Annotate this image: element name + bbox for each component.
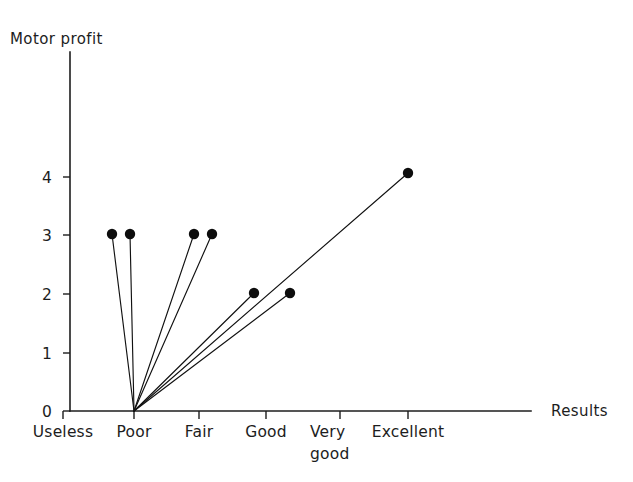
data-point-p2: [125, 229, 135, 239]
y-tick-label-4: 4: [42, 169, 52, 187]
data-point-p1: [107, 229, 117, 239]
ray-line-6: [134, 293, 290, 411]
data-point-p4: [207, 229, 217, 239]
data-point-p7: [403, 168, 413, 178]
data-point-p6: [285, 288, 295, 298]
x-tick-label-very-good: Verygood: [310, 423, 349, 463]
ray-lines-group: [112, 173, 408, 411]
ray-line-5: [134, 293, 254, 411]
data-point-p5: [249, 288, 259, 298]
x-tick-label-excellent: Excellent: [372, 423, 445, 441]
chart-container: Motor profit Results 01234 UselessPoorFa…: [0, 0, 633, 482]
y-tick-label-2: 2: [42, 286, 52, 304]
x-tick-label-fair: Fair: [185, 423, 214, 441]
x-tick-label-poor: Poor: [117, 423, 152, 441]
ray-line-7: [134, 173, 408, 411]
x-axis-ticks: UselessPoorFairGoodVerygoodExcellent: [33, 411, 444, 463]
x-tick-label-useless: Useless: [33, 423, 93, 441]
data-point-p3: [189, 229, 199, 239]
y-tick-label-0: 0: [42, 403, 52, 421]
data-point-markers-group: [107, 168, 413, 298]
y-tick-label-3: 3: [42, 227, 52, 245]
y-axis-title: Motor profit: [10, 30, 103, 48]
y-axis-ticks: 01234: [42, 169, 70, 421]
x-axis-title: Results: [551, 402, 608, 420]
x-tick-label-good: Good: [245, 423, 287, 441]
motor-profit-results-scatter: Motor profit Results 01234 UselessPoorFa…: [0, 0, 633, 482]
ray-line-4: [134, 234, 212, 411]
y-tick-label-1: 1: [42, 345, 52, 363]
